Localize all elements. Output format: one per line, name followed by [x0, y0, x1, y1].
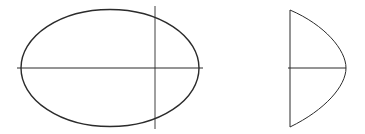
- side-view: [288, 10, 346, 127]
- front-view: [17, 6, 203, 129]
- diagram-canvas: [0, 0, 365, 134]
